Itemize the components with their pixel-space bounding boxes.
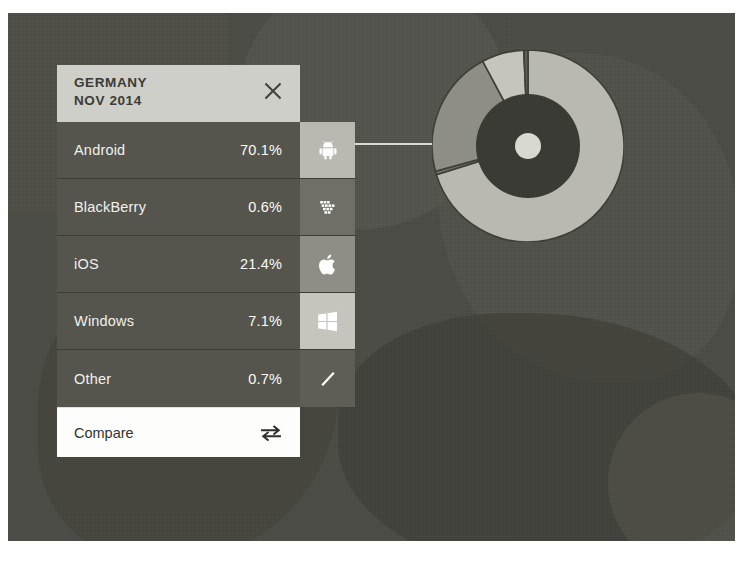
os-share-row[interactable]: BlackBerry0.6% bbox=[57, 179, 355, 236]
windows-icon[interactable] bbox=[300, 293, 355, 349]
os-share-row[interactable]: Other0.7% bbox=[57, 350, 355, 407]
os-share-row[interactable]: iOS21.4% bbox=[57, 236, 355, 293]
android-icon[interactable] bbox=[300, 122, 355, 178]
swap-arrows-icon[interactable] bbox=[260, 425, 282, 441]
compare-label: Compare bbox=[74, 425, 134, 441]
blackberry-icon[interactable] bbox=[300, 179, 355, 235]
os-row-main[interactable]: Other0.7% bbox=[57, 350, 300, 407]
os-name-label: Android bbox=[74, 142, 125, 158]
os-row-main[interactable]: Android70.1% bbox=[57, 122, 300, 178]
os-percent-value: 70.1% bbox=[240, 142, 282, 158]
os-row-main[interactable]: Windows7.1% bbox=[57, 293, 300, 349]
os-name-label: iOS bbox=[74, 256, 99, 272]
os-row-main[interactable]: iOS21.4% bbox=[57, 236, 300, 292]
panel-header: GERMANY NOV 2014 bbox=[57, 65, 300, 122]
os-name-label: Other bbox=[74, 371, 111, 387]
os-name-label: Windows bbox=[74, 313, 134, 329]
apple-icon[interactable] bbox=[300, 236, 355, 292]
close-icon[interactable] bbox=[263, 81, 283, 101]
os-share-row[interactable]: Android70.1% bbox=[57, 122, 355, 179]
compare-button[interactable]: Compare bbox=[57, 407, 300, 457]
os-share-list: Android70.1%BlackBerry0.6%iOS21.4%Window… bbox=[57, 122, 355, 407]
os-percent-value: 0.7% bbox=[248, 371, 282, 387]
country-stats-panel: GERMANY NOV 2014 Android70.1%BlackBerry0… bbox=[57, 65, 355, 457]
slash-icon[interactable] bbox=[300, 350, 355, 407]
screenshot-root: GERMANY NOV 2014 Android70.1%BlackBerry0… bbox=[0, 0, 749, 587]
os-share-pie-chart[interactable] bbox=[432, 50, 624, 242]
os-percent-value: 0.6% bbox=[248, 199, 282, 215]
os-percent-value: 7.1% bbox=[248, 313, 282, 329]
os-share-row[interactable]: Windows7.1% bbox=[57, 293, 355, 350]
os-name-label: BlackBerry bbox=[74, 199, 146, 215]
os-row-main[interactable]: BlackBerry0.6% bbox=[57, 179, 300, 235]
os-percent-value: 21.4% bbox=[240, 256, 282, 272]
pie-center-dot bbox=[515, 133, 541, 159]
